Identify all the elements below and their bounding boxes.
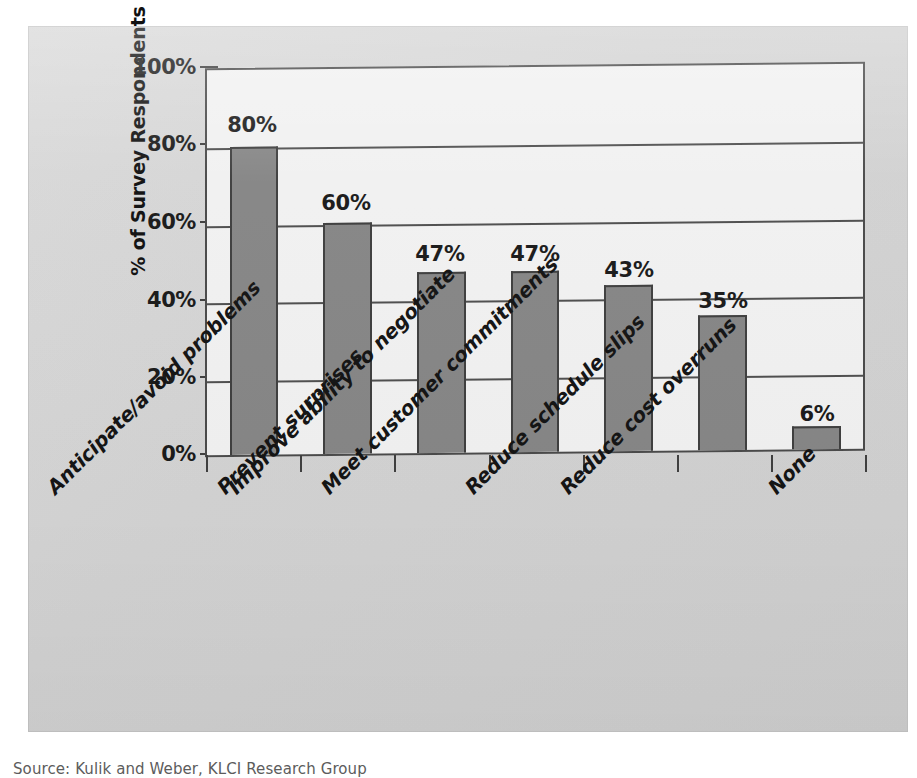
bar-anticipate-avoid-problems[interactable] — [230, 146, 279, 454]
y-axis-tick-group: 100% 80% 60% 40% 20% 0% — [108, 65, 196, 454]
bar-reduce-cost-overruns[interactable] — [698, 315, 747, 450]
bar-none[interactable] — [792, 426, 841, 450]
x-tick-mark — [583, 455, 585, 472]
bar-improve-ability-to-negotiate[interactable] — [417, 272, 466, 453]
bar-slot — [394, 67, 488, 453]
bar-slot — [488, 67, 582, 453]
y-tick-label: 0% — [161, 442, 196, 466]
x-tick-mark — [300, 455, 302, 472]
x-tick-mark — [771, 455, 773, 472]
x-tick-mark — [489, 455, 491, 472]
x-tick-mark — [865, 455, 867, 472]
bar-meet-customer-commitments[interactable] — [511, 271, 560, 452]
bars-layer — [207, 64, 863, 455]
x-tick-mark — [677, 455, 679, 472]
y-tick-label: 80% — [147, 132, 196, 156]
bar-slot — [301, 68, 395, 454]
y-tick-label: 40% — [147, 288, 196, 312]
figure-panel: % of Survey Respondents 100% 80% 60% 40%… — [28, 26, 908, 732]
source-caption: Source: Kulik and Weber, KLCI Research G… — [13, 760, 367, 778]
y-tick-label: 100% — [133, 55, 196, 79]
y-tick-label: 20% — [147, 365, 196, 389]
x-tick-mark — [206, 455, 208, 472]
bar-slot — [207, 69, 301, 455]
bar-slot — [676, 65, 770, 451]
bar-slot — [582, 66, 676, 452]
bar-prevent-surprises[interactable] — [323, 223, 372, 454]
plot-area — [205, 62, 865, 457]
y-tick-label: 60% — [147, 210, 196, 234]
bar-slot — [769, 64, 863, 450]
bar-reduce-schedule-slips[interactable] — [604, 285, 653, 451]
x-tick-mark — [394, 455, 396, 472]
